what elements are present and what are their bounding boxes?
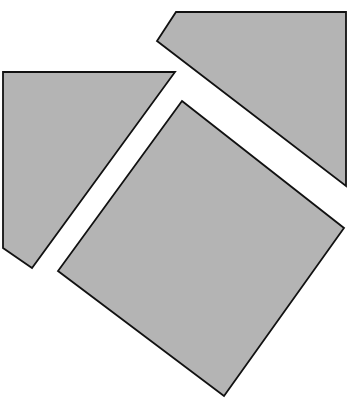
diagram-canvas — [0, 0, 350, 406]
